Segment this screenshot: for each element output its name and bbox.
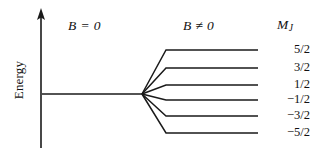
energy-level-line xyxy=(142,94,258,100)
energy-level-line xyxy=(142,68,258,94)
mj-value-label: −1/2 xyxy=(262,92,310,107)
mj-value-label: 1/2 xyxy=(262,77,310,92)
heading-b-equals-zero: B = 0 xyxy=(68,18,101,34)
zeeman-splitting-figure: Energy B = 0 B ≠ 0 MJ 5/23/21/2−1/2−3/2−… xyxy=(0,0,320,155)
mj-value-label: 3/2 xyxy=(262,60,310,75)
mj-value-label: 5/2 xyxy=(262,42,310,57)
energy-axis xyxy=(37,8,45,148)
split-energy-levels xyxy=(142,50,258,133)
mj-label-column: 5/23/21/2−1/2−3/2−5/2 xyxy=(262,0,314,155)
energy-axis-label: Energy xyxy=(11,50,27,110)
energy-level-line xyxy=(142,94,258,116)
mj-value-label: −5/2 xyxy=(262,125,310,140)
heading-b-not-equals-zero: B ≠ 0 xyxy=(183,18,214,34)
mj-value-label: −3/2 xyxy=(262,108,310,123)
energy-level-line xyxy=(142,85,258,94)
